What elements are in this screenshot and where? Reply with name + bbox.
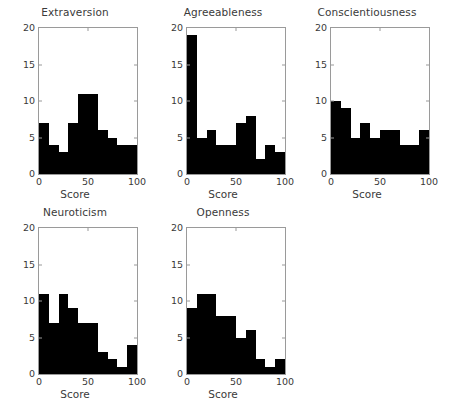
axes-frame: 05101520050100: [38, 27, 138, 175]
histogram-bar: [127, 345, 137, 374]
histogram-bar: [390, 130, 400, 174]
y-tick-label: 15: [23, 60, 35, 70]
y-tick-mark: [282, 64, 285, 65]
panel-title: Conscientiousness: [292, 6, 442, 18]
y-tick-mark: [134, 101, 137, 102]
x-tick-label: 50: [230, 177, 242, 187]
panel-title: Extraversion: [0, 6, 150, 18]
y-tick-label: 0: [29, 369, 35, 379]
y-tick-mark: [134, 264, 137, 265]
x-tick-label: 0: [36, 177, 42, 187]
panel-conscientiousness: Conscientiousness 05101520050100 Score: [292, 0, 442, 206]
histogram-bar: [226, 316, 236, 374]
histogram-bar: [351, 138, 361, 175]
panel-openness: Openness 05101520050100 Score: [148, 200, 298, 406]
histogram-bar: [265, 367, 275, 374]
y-tick-mark: [187, 301, 190, 302]
histogram-bar: [39, 123, 49, 174]
y-tick-label: 15: [315, 60, 327, 70]
bars-container: [39, 228, 137, 374]
histogram-bar: [216, 145, 226, 174]
y-tick-mark: [282, 101, 285, 102]
y-tick-label: 20: [23, 223, 35, 233]
y-tick-mark: [187, 64, 190, 65]
y-tick-label: 20: [171, 223, 183, 233]
histogram-bar: [49, 145, 59, 174]
histogram-bar: [197, 138, 207, 175]
x-tick-label: 0: [328, 177, 334, 187]
axes-frame: 05101520050100: [186, 27, 286, 175]
y-tick-label: 10: [171, 296, 183, 306]
y-tick-mark: [134, 337, 137, 338]
y-tick-label: 20: [171, 23, 183, 33]
histogram-bar: [207, 130, 217, 174]
x-tick-mark: [236, 28, 237, 31]
x-tick-label: 100: [128, 177, 146, 187]
y-tick-mark: [134, 137, 137, 138]
y-tick-label: 0: [177, 169, 183, 179]
x-axis-label: Score: [148, 188, 298, 200]
y-tick-label: 15: [23, 260, 35, 270]
y-tick-mark: [39, 337, 42, 338]
histogram-bar: [216, 316, 226, 374]
y-tick-mark: [282, 264, 285, 265]
histogram-bar: [360, 123, 370, 174]
y-tick-mark: [39, 137, 42, 138]
histogram-bar: [98, 130, 108, 174]
y-tick-label: 15: [171, 260, 183, 270]
panel-agreeableness: Agreeableness 05101520050100 Score: [148, 0, 298, 206]
y-tick-label: 0: [321, 169, 327, 179]
x-axis-label: Score: [0, 188, 150, 200]
histogram-bar: [341, 108, 351, 174]
panel-neuroticism: Neuroticism 05101520050100 Score: [0, 200, 150, 406]
histogram-bar: [98, 352, 108, 374]
x-tick-label: 0: [184, 177, 190, 187]
histogram-bar: [78, 323, 88, 374]
histogram-bar: [39, 294, 49, 374]
histogram-bar: [246, 330, 256, 374]
y-tick-mark: [187, 337, 190, 338]
y-tick-label: 20: [23, 23, 35, 33]
histogram-bar: [409, 145, 419, 174]
y-tick-label: 10: [315, 96, 327, 106]
y-tick-mark: [39, 64, 42, 65]
y-tick-label: 10: [171, 96, 183, 106]
y-tick-mark: [187, 101, 190, 102]
x-tick-mark: [380, 28, 381, 31]
x-tick-label: 50: [230, 377, 242, 387]
histogram-bar: [236, 123, 246, 174]
histogram-bar: [400, 145, 410, 174]
x-tick-label: 100: [420, 177, 438, 187]
x-tick-mark: [88, 28, 89, 31]
histogram-bar: [68, 123, 78, 174]
x-tick-label: 0: [184, 377, 190, 387]
histogram-bar: [246, 116, 256, 174]
histogram-bar: [127, 145, 137, 174]
histogram-bar: [236, 338, 246, 375]
y-tick-mark: [331, 64, 334, 65]
x-tick-mark: [236, 228, 237, 231]
y-tick-mark: [39, 264, 42, 265]
y-tick-label: 20: [315, 23, 327, 33]
y-tick-label: 0: [29, 169, 35, 179]
y-tick-mark: [134, 64, 137, 65]
histogram-bar: [78, 94, 88, 174]
y-tick-mark: [282, 137, 285, 138]
y-tick-mark: [426, 137, 429, 138]
axes-frame: 05101520050100: [330, 27, 430, 175]
y-tick-label: 5: [177, 333, 183, 343]
y-tick-mark: [282, 337, 285, 338]
y-tick-mark: [187, 137, 190, 138]
histogram-bar: [380, 130, 390, 174]
y-tick-label: 0: [177, 369, 183, 379]
bars-container: [187, 28, 285, 174]
histogram-bar: [226, 145, 236, 174]
histogram-bar: [256, 359, 266, 374]
histogram-bar: [275, 359, 285, 374]
histogram-bar: [197, 294, 207, 374]
y-tick-label: 5: [177, 133, 183, 143]
x-tick-label: 50: [82, 377, 94, 387]
y-tick-mark: [39, 301, 42, 302]
panel-title: Agreeableness: [148, 6, 298, 18]
y-tick-mark: [426, 101, 429, 102]
